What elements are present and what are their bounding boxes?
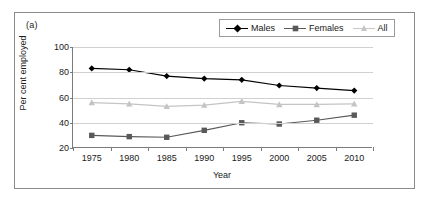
y-axis-tick bbox=[70, 72, 73, 73]
diamond-marker-icon bbox=[233, 24, 241, 32]
x-axis-tick bbox=[298, 147, 299, 151]
data-point-females-1990 bbox=[202, 128, 207, 133]
x-axis-tick bbox=[111, 147, 112, 151]
gridline bbox=[73, 123, 373, 124]
data-point-females-1980 bbox=[127, 134, 132, 139]
data-point-males-2010 bbox=[351, 87, 357, 93]
gridline bbox=[73, 72, 373, 73]
plot-area: 2040608010019751980198519901995200020052… bbox=[72, 47, 372, 148]
data-point-males-1995 bbox=[239, 77, 245, 83]
x-axis-title: Year bbox=[72, 170, 372, 180]
x-axis-tick-label: 2005 bbox=[307, 153, 327, 163]
x-axis-tick-label: 1980 bbox=[119, 153, 139, 163]
square-marker-icon bbox=[293, 25, 299, 31]
legend-line-all bbox=[353, 24, 375, 33]
y-axis-tick-label: 60 bbox=[59, 93, 69, 103]
legend-item-females: Females bbox=[284, 23, 344, 33]
legend-line-males bbox=[226, 24, 248, 33]
data-point-males-1975 bbox=[89, 65, 95, 71]
triangle-marker-icon bbox=[361, 25, 367, 31]
data-point-females-1985 bbox=[164, 135, 169, 140]
x-axis-tick bbox=[261, 147, 262, 151]
data-point-males-2005 bbox=[314, 85, 320, 91]
x-axis-tick-label: 1985 bbox=[157, 153, 177, 163]
x-axis-tick-label: 2000 bbox=[269, 153, 289, 163]
data-point-males-1990 bbox=[201, 75, 207, 81]
y-axis-tick-label: 80 bbox=[59, 67, 69, 77]
gridline bbox=[73, 47, 373, 48]
chart-legend: Males Females All bbox=[219, 19, 395, 37]
data-point-females-2010 bbox=[352, 112, 357, 117]
x-axis-tick-label: 1995 bbox=[232, 153, 252, 163]
legend-label-males: Males bbox=[251, 23, 275, 33]
x-axis-tick-label: 1975 bbox=[82, 153, 102, 163]
y-axis-title: Per cent employed bbox=[18, 21, 28, 125]
x-axis-tick-label: 1990 bbox=[194, 153, 214, 163]
figure-panel-a: (a) Males Females All Per cent employed … bbox=[0, 0, 429, 205]
y-axis-tick-label: 20 bbox=[59, 143, 69, 153]
y-axis-tick-label: 100 bbox=[54, 42, 69, 52]
data-point-males-2000 bbox=[276, 82, 282, 88]
legend-label-females: Females bbox=[309, 23, 344, 33]
x-axis-tick bbox=[148, 147, 149, 151]
legend-line-females bbox=[284, 24, 306, 33]
gridline bbox=[73, 98, 373, 99]
y-axis-tick bbox=[70, 47, 73, 48]
x-axis-tick bbox=[186, 147, 187, 151]
data-point-males-1985 bbox=[164, 73, 170, 79]
data-point-females-1975 bbox=[89, 133, 94, 138]
legend-item-all: All bbox=[353, 23, 388, 33]
x-axis-tick bbox=[223, 147, 224, 151]
legend-item-males: Males bbox=[226, 23, 275, 33]
x-axis-tick bbox=[373, 147, 374, 151]
y-axis-tick-label: 40 bbox=[59, 118, 69, 128]
x-axis-tick bbox=[336, 147, 337, 151]
y-axis-tick bbox=[70, 98, 73, 99]
y-axis-tick bbox=[70, 123, 73, 124]
legend-label-all: All bbox=[378, 23, 388, 33]
x-axis-tick bbox=[73, 147, 74, 151]
x-axis-tick-label: 2010 bbox=[344, 153, 364, 163]
